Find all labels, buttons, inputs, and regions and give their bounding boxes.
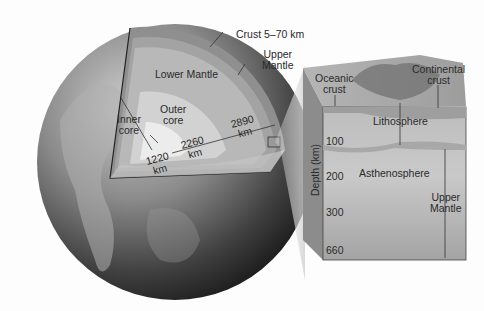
crust-label: Crust 5–70 km xyxy=(236,29,304,40)
depth-tick-100: 100 xyxy=(326,136,344,147)
depth-tick-200: 200 xyxy=(326,171,344,182)
depth-tick-300: 300 xyxy=(326,207,344,218)
upper-mantle-globe-label: Upper Mantle xyxy=(262,49,294,71)
inner-core-label: Inner core xyxy=(117,114,141,136)
asthenosphere-label: Asthenosphere xyxy=(359,168,430,179)
lithosphere-label: Lithosphere xyxy=(373,116,428,127)
diagram-graphics xyxy=(0,0,484,311)
continental-crust-label: Continental crust xyxy=(412,64,465,86)
earth-interior-diagram: Crust 5–70 km Upper Mantle Lower Mantle … xyxy=(0,0,484,311)
oceanic-crust-label: Oceanic crust xyxy=(315,73,354,95)
outer-core-label: Outer core xyxy=(160,104,186,126)
depth-tick-660: 660 xyxy=(326,245,344,256)
depth-axis-label: Depth (km) xyxy=(309,144,321,196)
lower-mantle-label: Lower Mantle xyxy=(155,69,218,80)
upper-mantle-block-label: Upper Mantle xyxy=(430,192,462,214)
